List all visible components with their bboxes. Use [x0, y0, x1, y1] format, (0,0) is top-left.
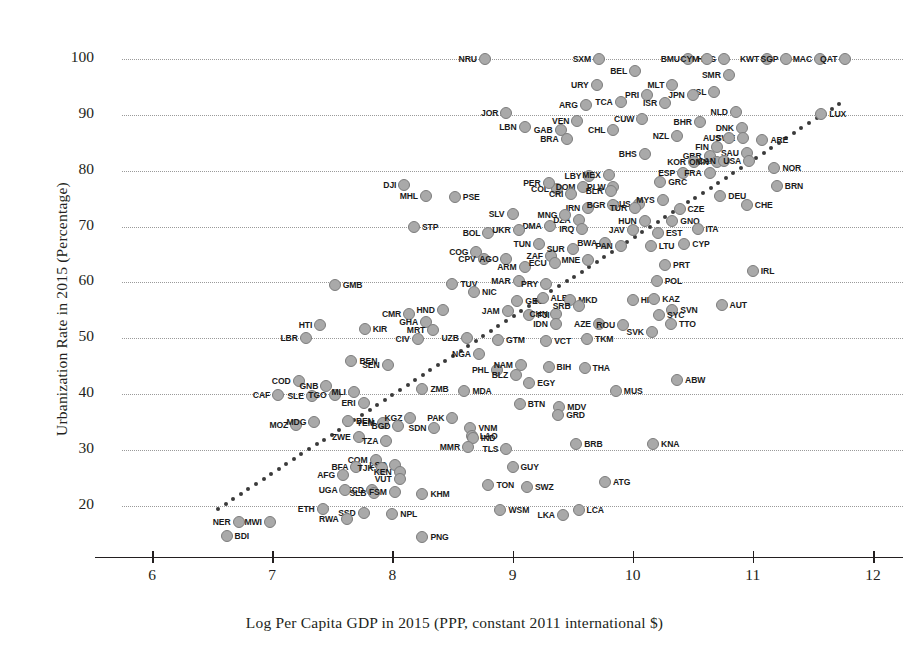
y-tick-label-30: 30 — [48, 439, 94, 457]
x-axis-line — [95, 557, 903, 558]
trendline-dot — [762, 151, 766, 155]
data-point — [337, 469, 349, 481]
data-point-label: BMU — [661, 54, 680, 64]
data-point — [651, 275, 663, 287]
data-point — [579, 362, 591, 374]
data-point — [511, 295, 523, 307]
data-point-label: NZL — [653, 131, 669, 141]
data-point — [573, 300, 585, 312]
data-point — [507, 461, 519, 473]
data-point-label: VEN — [552, 116, 569, 126]
data-point — [537, 292, 549, 304]
data-point-label: STP — [422, 222, 438, 232]
data-point-label: LBR — [280, 333, 297, 343]
data-point — [523, 377, 535, 389]
data-point — [704, 167, 716, 179]
data-point-label: SGP — [761, 54, 779, 64]
data-point — [462, 441, 474, 453]
data-point-label: ECU — [529, 258, 547, 268]
trendline-dot — [292, 457, 296, 461]
x-axis-title: Log Per Capita GDP in 2015 (PPP, constan… — [0, 614, 909, 632]
data-point-label: CPV — [458, 254, 475, 264]
data-point-label: SMR — [702, 70, 721, 80]
data-point-label: NPL — [400, 509, 417, 519]
data-point-label: MMR — [440, 442, 460, 452]
data-point-label: UZB — [441, 333, 458, 343]
x-tick-label-6: 6 — [132, 566, 172, 584]
data-point — [461, 332, 473, 344]
trendline-dot — [739, 166, 743, 170]
y-tick-label-60: 60 — [48, 271, 94, 289]
data-point — [300, 332, 312, 344]
data-point-label: BRB — [584, 439, 602, 449]
trendline-dot — [504, 319, 508, 323]
y-tick-label-40: 40 — [48, 383, 94, 401]
data-point — [380, 435, 392, 447]
data-point-label: BTN — [528, 399, 545, 409]
data-point-label: PNG — [430, 532, 448, 542]
data-point-label: AGO — [479, 254, 498, 264]
data-point — [756, 134, 768, 146]
data-point-label: BWA — [577, 238, 597, 248]
trendline-dot — [239, 492, 243, 496]
data-point — [839, 53, 851, 65]
data-point-label: COD — [272, 376, 291, 386]
data-point — [737, 132, 749, 144]
data-point-label: ZWE — [332, 432, 351, 442]
data-point-label: BOL — [463, 228, 481, 238]
data-point-label: JPN — [668, 90, 684, 100]
data-point — [317, 503, 329, 515]
trendline-dot — [368, 408, 372, 412]
trendline-dot — [769, 146, 773, 150]
data-point-label: ETH — [298, 504, 315, 514]
data-point-label: SWZ — [535, 482, 554, 492]
data-point-label: FSM — [369, 487, 387, 497]
data-point — [416, 531, 428, 543]
trendline-dot — [231, 497, 235, 501]
data-point-label: MWI — [244, 517, 261, 527]
data-point-label: BRA — [540, 134, 558, 144]
trendline-dot — [731, 171, 735, 175]
data-point-label: SRB — [553, 301, 571, 311]
trendline-dot — [724, 176, 728, 180]
data-point-label: IND — [481, 433, 496, 443]
data-point-label: SUR — [547, 244, 565, 254]
data-point-label: EGY — [537, 378, 555, 388]
data-point — [500, 443, 512, 455]
data-point-label: ABW — [685, 375, 705, 385]
data-point-label: LTU — [659, 241, 675, 251]
data-point-label: SLE — [287, 391, 303, 401]
trendline-dot — [269, 472, 273, 476]
data-point-label: PRY — [521, 279, 538, 289]
y-tick-label-80: 80 — [48, 160, 94, 178]
trendline-dot — [466, 344, 470, 348]
trendline-dot — [572, 275, 576, 279]
data-point — [519, 121, 531, 133]
trendline-dot — [595, 260, 599, 264]
data-point-label: UKR — [492, 225, 510, 235]
data-point-label: KWT — [740, 54, 759, 64]
data-point — [659, 259, 671, 271]
data-point-label: BHR — [674, 117, 692, 127]
y-tick-label-70: 70 — [48, 216, 94, 234]
trendline-dot — [322, 438, 326, 442]
data-point-label: SXM — [573, 54, 591, 64]
data-point — [671, 374, 683, 386]
trendline-dot — [315, 442, 319, 446]
data-point — [716, 299, 728, 311]
trendline-dot — [413, 378, 417, 382]
trendline-dot — [807, 121, 811, 125]
data-point — [500, 107, 512, 119]
data-point — [648, 293, 660, 305]
data-point — [543, 361, 555, 373]
data-point-label: JAM — [482, 306, 500, 316]
trendline-dot — [277, 467, 281, 471]
data-point-label: KNA — [661, 439, 679, 449]
trendline-dot — [436, 363, 440, 367]
data-point — [565, 188, 577, 200]
data-point — [718, 53, 730, 65]
trendline-dot — [799, 126, 803, 130]
data-point — [408, 221, 420, 233]
trendline-dot — [284, 462, 288, 466]
data-point — [652, 227, 664, 239]
